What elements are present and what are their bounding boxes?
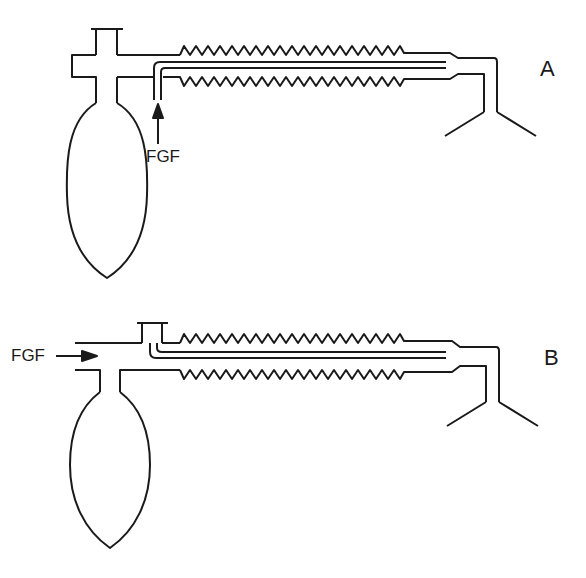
panel-a-fgf-arrow: [153, 104, 163, 144]
panel-a-reservoir-bag: [67, 103, 147, 278]
panel-b-corrugated-lower: [180, 370, 410, 379]
panel-a-label: A: [540, 56, 555, 82]
panel-b-fgf-label: FGF: [11, 346, 45, 366]
panel-b-valve-top: [137, 323, 168, 343]
panel-a-fgf-label: FGF: [146, 147, 180, 167]
panel-b-inner-tube: [150, 343, 446, 358]
panel-b-fgf-arrow: [56, 351, 97, 361]
panel-b-reservoir-bag: [70, 392, 150, 548]
panel-b-mask: [447, 402, 538, 426]
panel-a-corrugated-lower: [163, 77, 410, 86]
panel-a-circuit: [67, 29, 536, 278]
panel-a-corrugated-upper: [180, 46, 410, 55]
panel-a-mask: [445, 112, 536, 136]
panel-b-corrugated-upper: [180, 334, 410, 343]
panel-a-valve-top: [91, 29, 123, 55]
panel-b-circuit: [70, 323, 538, 548]
breathing-circuit-diagram: [0, 0, 586, 578]
panel-b-label: B: [544, 345, 559, 371]
